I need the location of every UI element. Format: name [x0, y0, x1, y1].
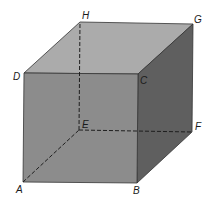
vertex-label-d: D: [13, 71, 20, 82]
cube-diagram: H G D C E F A B: [0, 0, 211, 200]
vertex-label-b: B: [133, 185, 140, 196]
vertex-label-h: H: [82, 10, 90, 21]
vertex-label-e: E: [82, 119, 89, 130]
vertex-label-f: F: [195, 121, 202, 132]
vertex-label-c: C: [140, 75, 148, 86]
vertex-label-a: A: [15, 184, 23, 195]
front-face: [23, 73, 138, 183]
vertex-label-g: G: [194, 14, 202, 25]
